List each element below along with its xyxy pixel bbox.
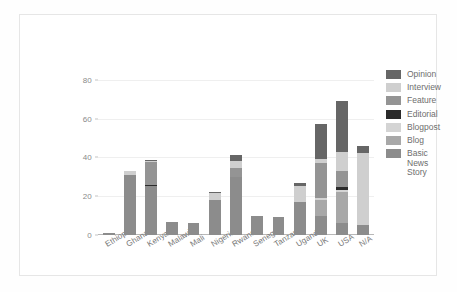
bar-segment — [230, 177, 242, 235]
gridline — [98, 80, 374, 81]
y-axis-tick-label: 60 — [83, 114, 92, 123]
plot-area: 020406080EthiopiaGhanaKenyaMalawiMaliNig… — [98, 70, 374, 235]
bar-uganda — [294, 183, 306, 235]
bar-segment — [336, 192, 348, 223]
chart-figure: 020406080EthiopiaGhanaKenyaMalawiMaliNig… — [0, 0, 457, 292]
bar-segment — [315, 163, 327, 198]
y-axis-tick-label: 0 — [87, 231, 92, 240]
bar-segment — [336, 101, 348, 151]
y-axis-tick-mark — [95, 235, 98, 236]
legend-item[interactable]: Interview — [386, 83, 457, 93]
legend-item[interactable]: Blogpost — [386, 123, 457, 133]
legend-swatch-icon — [386, 110, 401, 119]
legend-item-label: Feature — [407, 96, 436, 106]
legend-swatch-icon — [386, 70, 401, 79]
gridline — [98, 119, 374, 120]
bar-segment — [124, 175, 136, 235]
legend-item[interactable]: Editorial — [386, 110, 457, 120]
bar-segment — [209, 200, 221, 235]
bar-segment — [336, 171, 348, 187]
y-axis-tick-mark — [95, 157, 98, 158]
y-axis-tick-mark — [95, 79, 98, 80]
bar-segment — [315, 124, 327, 159]
chart-legend: OpinionInterviewFeatureEditorialBlogpost… — [386, 70, 457, 162]
legend-item-label: Editorial — [407, 110, 438, 120]
bar-malawi — [166, 222, 178, 235]
bar-segment — [315, 200, 327, 216]
legend-swatch-icon — [386, 83, 401, 92]
legend-swatch-icon — [386, 149, 401, 158]
bar-kenya — [145, 160, 157, 235]
legend-item[interactable]: Opinion — [386, 70, 457, 80]
bar-segment — [251, 216, 263, 235]
legend-item[interactable]: Blog — [386, 136, 457, 146]
y-axis-tick-mark — [95, 196, 98, 197]
bar-segment — [357, 153, 369, 225]
bar-segment — [294, 186, 306, 203]
bar-ghana — [124, 171, 136, 235]
legend-swatch-icon — [386, 96, 401, 105]
bar-mali — [188, 223, 200, 235]
y-axis-tick-mark — [95, 118, 98, 119]
bar-segment — [230, 168, 242, 177]
bar-segment — [336, 152, 348, 171]
y-axis-tick-label: 20 — [83, 192, 92, 201]
legend-item-label: Opinion — [407, 70, 436, 80]
chart-frame: 020406080EthiopiaGhanaKenyaMalawiMaliNig… — [19, 14, 437, 276]
bar-segment — [209, 193, 221, 200]
bar-rwanda — [230, 155, 242, 235]
legend-item-label: Interview — [407, 83, 441, 93]
bar-segment — [357, 146, 369, 154]
legend-item-label: Basic News Story — [407, 149, 428, 178]
legend-swatch-icon — [386, 123, 401, 132]
bar-senegal — [251, 216, 263, 235]
legend-item-label: Blogpost — [407, 123, 440, 133]
legend-item-label: Blog — [407, 136, 424, 146]
bar-segment — [336, 223, 348, 235]
bar-segment — [166, 222, 178, 235]
bar-segment — [230, 161, 242, 168]
bar-segment — [315, 216, 327, 235]
bar-segment — [145, 186, 157, 235]
bar-tanzania — [273, 217, 285, 235]
bar-usa — [336, 101, 348, 235]
x-axis-tick-label: N/A — [358, 234, 374, 249]
legend-item[interactable]: Feature — [386, 96, 457, 106]
bar-n-a — [357, 146, 369, 235]
bar-segment — [188, 223, 200, 235]
bar-segment — [145, 162, 157, 185]
bar-uk — [315, 124, 327, 235]
bar-segment — [294, 202, 306, 235]
bar-segment — [273, 217, 285, 235]
y-axis-tick-label: 80 — [83, 75, 92, 84]
y-axis-tick-label: 40 — [83, 153, 92, 162]
legend-item[interactable]: Basic News Story — [386, 149, 457, 159]
bar-nigeria — [209, 192, 221, 235]
legend-swatch-icon — [386, 136, 401, 145]
